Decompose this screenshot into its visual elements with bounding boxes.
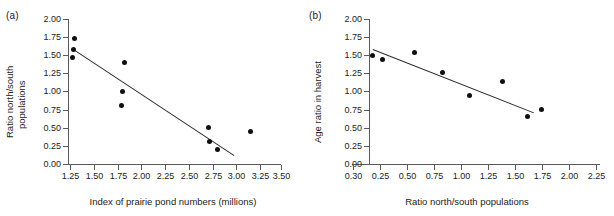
panel-b: (b) Age ratio in harvest 2.00 1.75 1.50 … [307, 0, 614, 216]
data-point [380, 57, 385, 62]
panel-a-ytick [63, 146, 68, 147]
panel-b-ytick-label: 1.25 [327, 68, 362, 78]
panel-b-ytick [364, 91, 369, 92]
panel-a-ytick [63, 128, 68, 129]
panel-b-xtick [461, 165, 462, 170]
panel-a-ytick-label: 1.50 [26, 50, 61, 60]
data-point [215, 147, 220, 152]
data-point [120, 89, 125, 94]
panel-a-ytick [63, 55, 68, 56]
data-point [525, 114, 530, 119]
panel-b-xtick [434, 165, 435, 170]
panel-a-xtick [189, 165, 190, 170]
panel-a-ytick-label: 0.50 [26, 123, 61, 133]
panel-a-ytick [63, 91, 68, 92]
panel-b-xtick [515, 165, 516, 170]
panel-a-ytick-label: 0.00 [26, 159, 61, 169]
panel-b-ytick [364, 164, 369, 165]
data-point [370, 53, 375, 58]
panel-b-xtick-label: 2.00 [556, 171, 583, 181]
panel-a-ytick-label: 1.75 [26, 32, 61, 42]
panel-b-ytick-label: 1.50 [327, 50, 362, 60]
panel-b-xtick-label: 1.25 [475, 171, 502, 181]
panel-b-xtick-label: 0.25 [367, 171, 394, 181]
panel-a-ytick [63, 37, 68, 38]
panel-b-y-axis [369, 19, 370, 165]
panel-a-plot-area: 2.00 1.75 1.50 1.25 1.00 0.75 0.50 0.25 … [0, 0, 307, 216]
panel-a-xtick-label: 3.50 [268, 171, 295, 181]
data-point [412, 50, 417, 55]
data-point [72, 36, 77, 41]
panel-b-ytick [364, 37, 369, 38]
data-point [206, 125, 211, 130]
data-point [467, 93, 472, 98]
panel-b-ytick-label: 0.00 [327, 159, 362, 169]
panel-a-x-axis [68, 164, 281, 165]
panel-b-ytick-label: 1.75 [327, 32, 362, 42]
panel-a-xtick-label: 2.25 [152, 171, 179, 181]
data-point [248, 129, 253, 134]
data-point [119, 103, 124, 108]
panel-a-xtick [70, 165, 71, 170]
panel-b-x-axis [352, 164, 600, 165]
panel-a-xtick [118, 165, 119, 170]
panel-a-xtick [236, 165, 237, 170]
data-point [71, 47, 76, 52]
panel-b-xtick [407, 165, 408, 170]
panel-a-xtick [165, 165, 166, 170]
panel-a-xtick [141, 165, 142, 170]
panel-a-xtick-label: 1.50 [81, 171, 108, 181]
panel-a-xtick-label: 3.00 [223, 171, 250, 181]
panel-b-ytick [364, 110, 369, 111]
panel-b-xtick [380, 165, 381, 170]
panel-a-ytick [63, 19, 68, 20]
panel-b-xtick-label: 1.50 [502, 171, 529, 181]
data-point [70, 55, 75, 60]
figure-two-panel-scatter: (a) Ratio north/south populations 2.00 1… [0, 0, 614, 216]
panel-a-ytick [63, 164, 68, 165]
panel-a-xtick-label: 2.00 [128, 171, 155, 181]
panel-b-xtick-label: 2.25 [583, 171, 610, 181]
panel-b-ytick [364, 19, 369, 20]
data-point [122, 60, 127, 65]
panel-b-ytick [364, 55, 369, 56]
panel-a-xtick [281, 165, 282, 170]
panel-b-ytick-label: 0.75 [327, 105, 362, 115]
panel-a-ytick [63, 110, 68, 111]
panel-b-xtick [542, 165, 543, 170]
panel-a-ytick-label: 2.00 [26, 14, 61, 24]
panel-a-xtick-label: 1.25 [57, 171, 84, 181]
panel-b-xtick [596, 165, 597, 170]
panel-b-xtick [488, 165, 489, 170]
data-point [440, 70, 445, 75]
panel-a: (a) Ratio north/south populations 2.00 1… [0, 0, 307, 216]
panel-a-xtick [213, 165, 214, 170]
panel-a-y-axis [68, 19, 69, 165]
data-point [500, 79, 505, 84]
panel-a-ytick [63, 73, 68, 74]
data-point [539, 107, 544, 112]
panel-b-xlabel: Ratio north/south populations [347, 196, 587, 207]
panel-a-ytick-label: 1.25 [26, 68, 61, 78]
panel-b-ytick-label: 1.00 [327, 86, 362, 96]
panel-b-ytick-label: 2.00 [327, 14, 362, 24]
panel-a-xtick [94, 165, 95, 170]
panel-a-ytick-label: 0.25 [26, 141, 61, 151]
panel-a-xtick-label: 2.50 [176, 171, 203, 181]
panel-a-ytick-label: 0.75 [26, 105, 61, 115]
data-point [207, 139, 212, 144]
panel-b-trendline [373, 49, 534, 113]
panel-b-plot-area: 2.00 1.75 1.50 1.25 1.00 0.75 0.50 0.25 … [307, 0, 614, 216]
panel-b-ytick [364, 73, 369, 74]
panel-b-xtick-label: 0.50 [394, 171, 421, 181]
panel-b-xtick-label: 1.00 [448, 171, 475, 181]
panel-b-ytick-label: 0.25 [327, 141, 362, 151]
panel-b-xtick-label: 0.30 [340, 171, 367, 181]
panel-a-ytick-label: 1.00 [26, 86, 61, 96]
panel-b-ytick-label: 0.50 [327, 123, 362, 133]
panel-b-xtick-label: 0.75 [421, 171, 448, 181]
panel-b-xtick [569, 165, 570, 170]
panel-a-xlabel: Index of prairie pond numbers (millions) [48, 196, 298, 207]
panel-b-ytick [364, 128, 369, 129]
panel-b-ytick [364, 146, 369, 147]
